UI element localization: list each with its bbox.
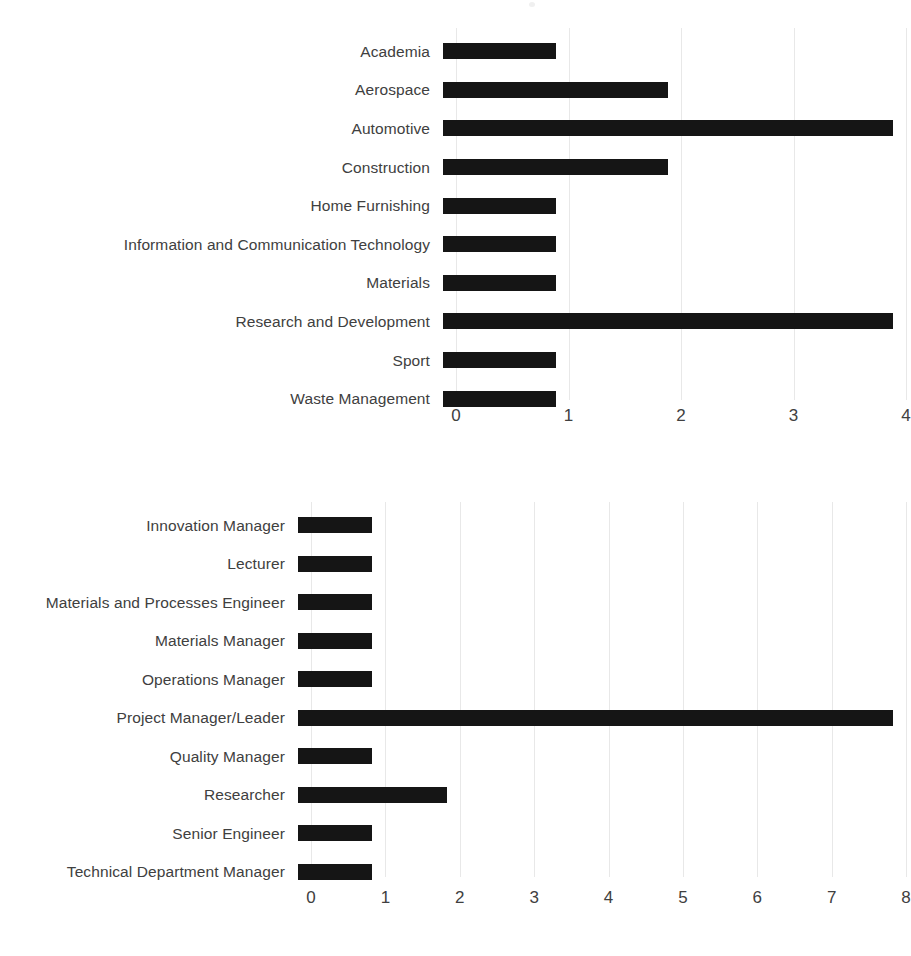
bar-row: Lecturer: [0, 545, 906, 584]
bar: [443, 43, 556, 59]
bar-track: [443, 32, 906, 71]
x-axis-tick-label: 0: [451, 406, 460, 426]
bar-row: Researcher: [0, 776, 906, 815]
bar-track: [443, 109, 906, 148]
industry-bar-chart: AcademiaAerospaceAutomotiveConstructionH…: [0, 0, 906, 478]
bar-row: Information and Communication Technology: [0, 225, 906, 264]
bar-row: Innovation Manager: [0, 506, 906, 545]
bar-track: [298, 699, 906, 738]
category-label: Innovation Manager: [0, 517, 298, 534]
bar-track: [298, 853, 906, 892]
bar-track: [443, 225, 906, 264]
bar-track: [443, 302, 906, 341]
bar: [443, 391, 556, 407]
bar-track: [443, 148, 906, 187]
bar-track: [443, 71, 906, 110]
bar: [443, 159, 668, 175]
bar-track: [443, 264, 906, 303]
bar: [298, 594, 372, 610]
x-axis-tick-label: 3: [529, 888, 538, 908]
bar-row: Aerospace: [0, 71, 906, 110]
category-label: Technical Department Manager: [0, 863, 298, 880]
bar: [298, 787, 447, 803]
bar: [443, 352, 556, 368]
category-label: Quality Manager: [0, 748, 298, 765]
category-label: Waste Management: [0, 390, 443, 407]
bar: [298, 517, 372, 533]
bar-track: [298, 622, 906, 661]
bar: [298, 633, 372, 649]
bar-row: Project Manager/Leader: [0, 699, 906, 738]
bar-track: [298, 776, 906, 815]
bar-row: Materials: [0, 264, 906, 303]
x-axis-tick-label: 8: [901, 888, 910, 908]
role-x-axis: 012345678: [0, 888, 906, 918]
bar-row: Quality Manager: [0, 737, 906, 776]
bar: [443, 82, 668, 98]
bar-track: [298, 737, 906, 776]
bar-track: [443, 341, 906, 380]
bar-track: [298, 506, 906, 545]
x-axis-tick-label: 4: [901, 406, 910, 426]
bar: [443, 236, 556, 252]
x-axis-tick-label: 5: [678, 888, 687, 908]
category-label: Lecturer: [0, 555, 298, 572]
industry-x-axis: 01234: [0, 406, 906, 436]
role-bar-chart: Innovation ManagerLecturerMaterials and …: [0, 478, 906, 956]
bar-row: Research and Development: [0, 302, 906, 341]
x-axis-tick-label: 0: [306, 888, 315, 908]
x-axis-tick-label: 6: [753, 888, 762, 908]
gridline: [906, 502, 907, 877]
category-label: Home Furnishing: [0, 197, 443, 214]
bar-row: Automotive: [0, 109, 906, 148]
category-label: Automotive: [0, 120, 443, 137]
bar: [298, 864, 372, 880]
bar: [298, 710, 893, 726]
x-axis-tick-label: 1: [564, 406, 573, 426]
bar: [298, 748, 372, 764]
bar-track: [298, 545, 906, 584]
bar-row: Construction: [0, 148, 906, 187]
bar: [298, 825, 372, 841]
bar-row: Senior Engineer: [0, 814, 906, 853]
bar-track: [298, 583, 906, 622]
x-axis-tick-label: 2: [455, 888, 464, 908]
category-label: Materials Manager: [0, 632, 298, 649]
bar-track: [298, 660, 906, 699]
category-label: Information and Communication Technology: [0, 236, 443, 253]
bar-row: Academia: [0, 32, 906, 71]
category-label: Materials and Processes Engineer: [0, 594, 298, 611]
category-label: Research and Development: [0, 313, 443, 330]
x-axis-tick-label: 4: [604, 888, 613, 908]
bar-track: [298, 814, 906, 853]
bar-row: Technical Department Manager: [0, 853, 906, 892]
category-label: Construction: [0, 159, 443, 176]
category-label: Senior Engineer: [0, 825, 298, 842]
x-axis-tick-label: 7: [827, 888, 836, 908]
bar-row: Materials Manager: [0, 622, 906, 661]
category-label: Operations Manager: [0, 671, 298, 688]
gridline: [906, 28, 907, 400]
bar: [443, 198, 556, 214]
bar: [443, 120, 893, 136]
category-label: Project Manager/Leader: [0, 709, 298, 726]
category-label: Researcher: [0, 786, 298, 803]
bar-track: [443, 186, 906, 225]
category-label: Aerospace: [0, 81, 443, 98]
x-axis-tick-label: 2: [676, 406, 685, 426]
category-label: Academia: [0, 43, 443, 60]
bar: [298, 671, 372, 687]
x-axis-tick-label: 1: [381, 888, 390, 908]
bar-row: Home Furnishing: [0, 186, 906, 225]
bar-row: Materials and Processes Engineer: [0, 583, 906, 622]
bar: [443, 275, 556, 291]
bar-row: Operations Manager: [0, 660, 906, 699]
category-label: Materials: [0, 274, 443, 291]
bar-row: Sport: [0, 341, 906, 380]
x-axis-tick-label: 3: [789, 406, 798, 426]
bar: [443, 313, 893, 329]
bar: [298, 556, 372, 572]
category-label: Sport: [0, 352, 443, 369]
